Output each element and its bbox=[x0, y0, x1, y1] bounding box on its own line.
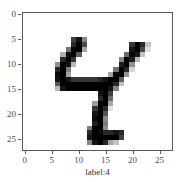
x-tick-label: 15 bbox=[101, 155, 110, 165]
y-tick-label: 20 bbox=[7, 109, 16, 119]
y-tick-mark bbox=[18, 64, 21, 65]
x-tick-label: 5 bbox=[49, 155, 54, 165]
y-tick-mark bbox=[18, 89, 21, 90]
y-tick-label: 15 bbox=[7, 84, 16, 94]
x-axis-label: label:4 bbox=[22, 167, 173, 178]
y-tick-mark bbox=[18, 39, 21, 40]
mnist-digit-heatmap bbox=[23, 13, 172, 150]
x-tick-mark bbox=[52, 151, 53, 154]
x-tick-mark bbox=[79, 151, 80, 154]
x-tick-mark bbox=[133, 151, 134, 154]
x-tick-label: 20 bbox=[128, 155, 137, 165]
y-tick-label: 0 bbox=[12, 9, 17, 19]
x-tick-mark bbox=[25, 151, 26, 154]
y-tick-label: 5 bbox=[12, 34, 17, 44]
x-tick-label: 0 bbox=[22, 155, 27, 165]
y-tick-mark bbox=[18, 14, 21, 15]
y-tick-label: 25 bbox=[7, 134, 16, 144]
x-tick-label: 10 bbox=[74, 155, 83, 165]
y-tick-label: 10 bbox=[7, 59, 16, 69]
y-tick-mark bbox=[18, 114, 21, 115]
digit-image-axes bbox=[22, 12, 173, 151]
x-tick-mark bbox=[160, 151, 161, 154]
y-tick-mark bbox=[18, 139, 21, 140]
x-tick-mark bbox=[106, 151, 107, 154]
x-tick-label: 25 bbox=[155, 155, 164, 165]
matplotlib-figure: 05101520250510152025 label:4 bbox=[0, 0, 187, 182]
